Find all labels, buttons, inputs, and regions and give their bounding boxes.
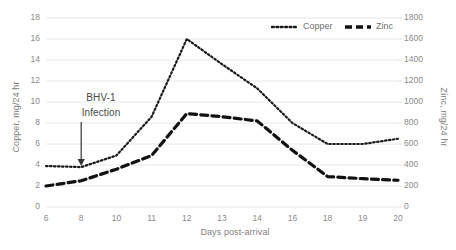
annotation-bhv1-line1: BHV-1 [58, 92, 144, 103]
legend-label-copper[interactable]: Copper [303, 21, 333, 31]
annotation-bhv1-line2: Infection [58, 107, 144, 118]
legend-label-zinc[interactable]: Zinc [376, 21, 393, 31]
series-line-zinc [46, 114, 398, 186]
plot-area [0, 0, 456, 250]
series-line-copper [46, 39, 398, 167]
chart-container: Copper, mg/24 hr Zinc, mg/24 hr Days pos… [0, 0, 456, 250]
